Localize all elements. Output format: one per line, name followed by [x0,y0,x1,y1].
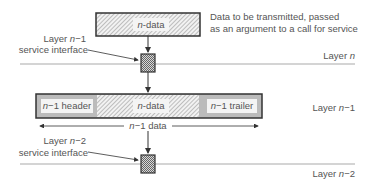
layer-n2-label: Layer n−2 [312,168,355,179]
upper-interface-label-1: Layer n−1 [43,33,86,44]
lower-pointer [88,152,138,160]
encapsulation-diagram: n-data Data to be transmitted, passed as… [0,0,378,186]
header-label: n−1 header [43,100,91,111]
layer-n-label: Layer n [323,50,355,61]
trailer-label: n−1 trailer [211,100,254,111]
upper-pointer [88,50,138,60]
upper-sap-box [141,54,155,72]
pdu-data-label: n-data [138,100,166,111]
lower-sap-box [141,155,155,173]
upper-interface-label-2: service interface [19,44,88,55]
lower-interface-label-2: service interface [19,147,88,158]
annotation-line1: Data to be transmitted, passed [210,11,339,22]
annotation-line2: as an argument to a call for service [210,23,358,34]
span-label: n−1 data [129,120,167,131]
lower-interface-label-1: Layer n−2 [43,135,86,146]
n-data-label: n-data [138,19,166,30]
layer-n1-label: Layer n−1 [312,102,355,113]
